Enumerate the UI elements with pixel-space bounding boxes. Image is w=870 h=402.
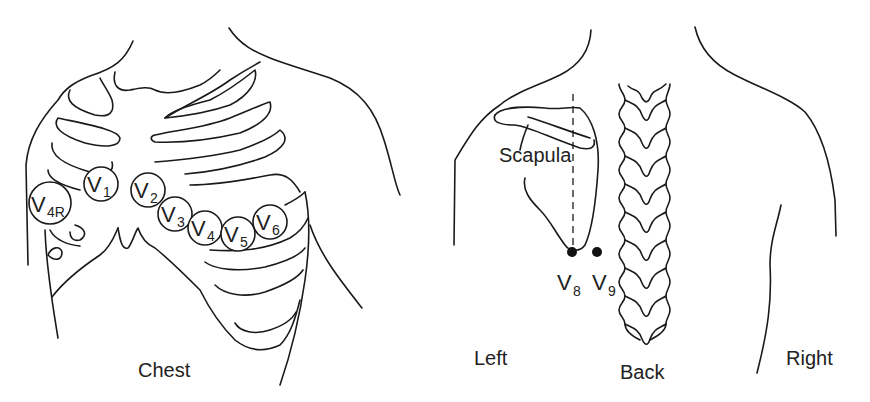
rib — [50, 230, 80, 246]
scapula-label: Scapula — [499, 144, 572, 166]
svg-text:9: 9 — [608, 283, 616, 299]
svg-text:V: V — [87, 172, 102, 197]
electrode-v9: V 9 — [592, 247, 616, 299]
chest-left-costal — [52, 228, 118, 297]
rib — [70, 225, 85, 240]
svg-text:4R: 4R — [47, 204, 65, 220]
rib — [235, 312, 296, 332]
left-label: Left — [474, 347, 508, 369]
scapula — [495, 107, 598, 250]
svg-text:V: V — [592, 270, 607, 295]
chest-right-outer — [310, 225, 362, 308]
svg-text:V: V — [256, 210, 271, 235]
back-label: Back — [620, 361, 665, 383]
right-label: Right — [786, 347, 833, 369]
clavicle-left — [114, 70, 220, 93]
back-panel: V 8 V 9 Scapula Left Back Right — [454, 27, 836, 383]
chest-panel: V 4R V 1 V 2 V 3 V 4 V 5 V — [26, 28, 400, 385]
rib — [56, 118, 120, 146]
electrode-v8: V 8 — [557, 247, 581, 299]
svg-text:V: V — [134, 178, 149, 203]
svg-text:V: V — [557, 270, 572, 295]
svg-text:V: V — [31, 192, 46, 217]
electrode-v6: V 6 — [253, 205, 287, 239]
electrode-v4: V 4 — [188, 211, 222, 245]
back-right-torso-edge — [757, 205, 781, 373]
rib — [215, 270, 303, 295]
svg-text:2: 2 — [150, 190, 158, 206]
electrode-v2: V 2 — [131, 173, 165, 207]
rib — [190, 174, 300, 192]
svg-text:V: V — [191, 216, 206, 241]
rib — [48, 248, 62, 259]
scapula-ridge — [528, 117, 590, 138]
svg-text:V: V — [161, 202, 176, 227]
chest-neck-right — [229, 28, 400, 195]
rib — [151, 102, 270, 142]
svg-text:3: 3 — [177, 214, 185, 230]
svg-text:5: 5 — [240, 234, 248, 250]
rib — [285, 192, 305, 205]
svg-text:8: 8 — [573, 283, 581, 299]
spine — [619, 84, 670, 344]
back-shoulder-right — [695, 27, 836, 236]
ecg-lead-placement-diagram: V 4R V 1 V 2 V 3 V 4 V 5 V — [0, 0, 870, 402]
svg-text:4: 4 — [207, 228, 215, 244]
svg-text:6: 6 — [272, 222, 280, 238]
svg-text:V: V — [224, 222, 239, 247]
electrode-v1: V 1 — [84, 167, 118, 201]
electrode-v3: V 3 — [158, 197, 192, 231]
chest-label: Chest — [138, 359, 191, 381]
chest-left-lower-edge — [45, 230, 58, 338]
electrode-v4r: V 4R — [29, 182, 71, 224]
electrode-v5: V 5 — [221, 217, 255, 251]
svg-text:1: 1 — [103, 184, 111, 200]
